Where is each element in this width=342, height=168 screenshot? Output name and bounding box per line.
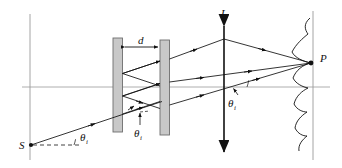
angle-source-subscript: i (86, 138, 88, 146)
interference-fringe-intensity-profile (292, 18, 310, 151)
optics-interference-figure: S P L d θ i θ i θ i (0, 0, 342, 168)
label-separation-d: d (138, 34, 144, 46)
label-point-p: P (319, 52, 327, 64)
incident-ray-from-source (31, 102, 162, 146)
figure-canvas: S P L d θ i θ i θ i (0, 0, 342, 168)
emergent-parallel-rays-to-p (170, 39, 312, 105)
right-partially-reflecting-plate (160, 40, 170, 135)
etalon-plates (113, 38, 170, 135)
angle-plate-subscript: i (140, 134, 142, 142)
angle-pointer-screen (234, 89, 239, 96)
multiply-reflected-internal-rays (123, 61, 161, 114)
angle-screen-subscript: i (234, 104, 236, 112)
angle-arc-source (74, 139, 76, 145)
observation-point-p (309, 61, 314, 66)
label-angle-screen: θ i (228, 97, 236, 112)
source-point-s (29, 143, 33, 147)
label-source-s: S (19, 139, 25, 151)
angle-dash-plate (140, 111, 150, 112)
label-angle-plate: θ i (134, 127, 142, 142)
construction-axes (22, 11, 330, 160)
left-partially-reflecting-plate (113, 38, 123, 132)
label-angle-source: θ i (80, 131, 88, 146)
label-axis-l: L (220, 7, 227, 19)
